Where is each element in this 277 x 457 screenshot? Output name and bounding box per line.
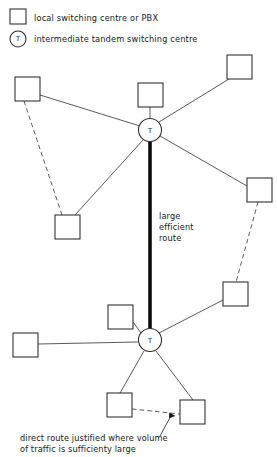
node-local-top-centre[interactable] <box>138 83 163 107</box>
node-tandem-upper[interactable]: T <box>139 119 162 142</box>
legend: local switching centre or PBX T intermed… <box>10 9 198 47</box>
link-mid-right-to-upper-tandem <box>160 136 247 186</box>
dashed-link-mid-right-to-right-lower <box>236 202 258 282</box>
dashed-link-bottom-left-to-bottom-right <box>132 409 180 414</box>
link-above-lower-t-to-lower-tandem <box>133 322 141 333</box>
local-nodes-group <box>13 55 272 424</box>
link-top-left-to-upper-tandem <box>40 95 140 126</box>
node-local-right-lower[interactable] <box>223 282 248 306</box>
node-local-mid-left[interactable] <box>55 215 80 239</box>
trunk-label-line-3: route <box>159 233 181 243</box>
node-local-top-left[interactable] <box>15 77 40 101</box>
link-bottom-right-to-lower-tandem <box>156 351 193 400</box>
caption-line-1: direct route justified where volume <box>20 433 168 443</box>
link-left-lower-to-lower-tandem <box>38 342 138 344</box>
node-local-top-right[interactable] <box>227 55 252 79</box>
trunk-route-label: large efficient route <box>159 211 194 243</box>
dashed-link-top-left-to-mid-left <box>24 101 62 215</box>
legend-label-local: local switching centre or PBX <box>34 13 158 23</box>
legend-item-tandem-switching-centre: T intermediate tandem switching centre <box>10 31 198 47</box>
node-local-mid-right[interactable] <box>247 178 272 202</box>
node-tandem-lower[interactable]: T <box>139 329 162 352</box>
diagram-page: local switching centre or PBX T intermed… <box>0 0 277 457</box>
node-local-bottom-left[interactable] <box>107 393 132 417</box>
trunk-label-line-2: efficient <box>159 222 194 232</box>
dashed-links-group <box>24 101 258 414</box>
legend-square-icon <box>10 9 26 24</box>
caption-annotation: direct route justified where volume of t… <box>20 413 176 455</box>
caption-line-2: of traffic is sufficienty large <box>20 444 136 454</box>
node-local-above-lower-t[interactable] <box>108 305 133 329</box>
link-top-right-to-upper-tandem <box>159 79 229 122</box>
node-local-bottom-right[interactable] <box>180 400 205 424</box>
link-right-lower-to-lower-tandem <box>159 300 223 333</box>
network-topology-diagram: local switching centre or PBX T intermed… <box>0 0 277 457</box>
legend-item-local-switching-centre: local switching centre or PBX <box>10 9 158 24</box>
link-bottom-left-to-lower-tandem <box>120 351 144 393</box>
trunk-label-line-1: large <box>159 211 181 221</box>
link-mid-left-to-upper-tandem <box>75 140 143 215</box>
node-local-left-lower[interactable] <box>13 333 38 357</box>
legend-label-tandem: intermediate tandem switching centre <box>34 34 198 44</box>
